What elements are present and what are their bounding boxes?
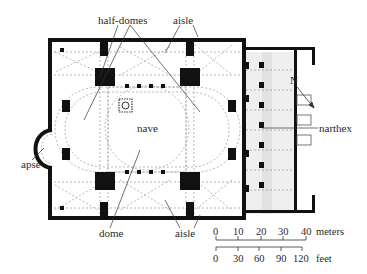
label-apse: apse [21,158,41,170]
scale-ft-60: 60 [254,253,265,264]
ambo-mark [119,99,132,112]
scale-bars [216,236,306,251]
scale-ft-90: 90 [276,253,287,264]
narthex-annex [297,95,311,145]
scale-m-unit: meters [316,226,344,237]
label-half-domes: half-domes [98,14,147,26]
scale-m-20: 20 [256,226,267,237]
scale-ft-120: 120 [293,253,309,264]
scale-ft-30: 30 [233,253,244,264]
scale-m-10: 10 [233,226,244,237]
scale-m-30: 30 [278,226,289,237]
scale-m-40: 40 [301,226,312,237]
scale-m-0: 0 [213,226,218,237]
label-aisle-bottom: aisle [175,227,195,239]
label-north: N [290,74,298,86]
label-dome: dome [99,227,123,239]
scale-ft-unit: feet [316,253,332,264]
label-narthex: narthex [319,122,352,134]
label-aisle-top: aisle [173,14,193,26]
label-nave: nave [137,122,158,134]
scale-ft-0: 0 [213,253,218,264]
